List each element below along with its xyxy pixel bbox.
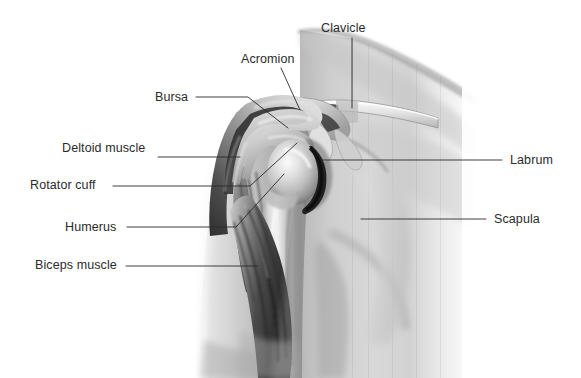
label-acromion: Acromion — [241, 53, 295, 66]
label-humerus: Humerus — [65, 221, 116, 234]
diagram-canvas: Clavicle Acromion Bursa Deltoid muscle R… — [0, 0, 581, 378]
label-biceps-muscle: Biceps muscle — [35, 259, 117, 272]
label-labrum: Labrum — [510, 154, 553, 167]
label-bursa: Bursa — [155, 91, 188, 104]
label-deltoid-muscle: Deltoid muscle — [62, 142, 145, 155]
label-scapula: Scapula — [494, 213, 540, 226]
label-rotator-cuff: Rotator cuff — [30, 179, 96, 192]
label-clavicle: Clavicle — [321, 22, 366, 35]
torso — [298, 0, 581, 378]
